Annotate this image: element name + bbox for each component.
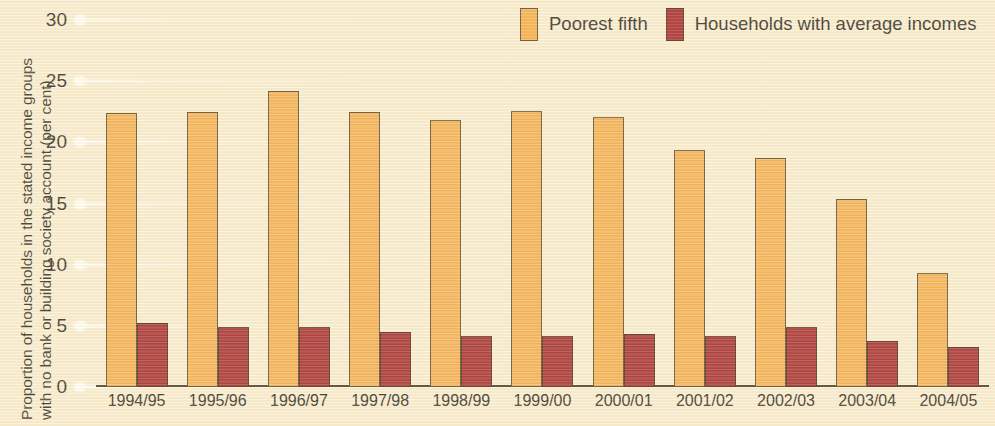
bar-series-b[interactable] xyxy=(867,341,898,387)
gridline-tick-dot-icon xyxy=(72,197,88,210)
bar-series-a[interactable] xyxy=(836,199,867,387)
x-tick-label: 1997/98 xyxy=(340,392,421,410)
bar-series-b[interactable] xyxy=(948,347,979,387)
x-tick-label: 2004/05 xyxy=(908,392,989,410)
bar-series-b[interactable] xyxy=(624,334,655,387)
bar-series-a[interactable] xyxy=(755,158,786,387)
bar-group xyxy=(340,20,421,387)
bar-group xyxy=(96,20,177,387)
y-tick-label: 20 xyxy=(27,131,67,153)
bar-group xyxy=(908,20,989,387)
gridline-tick-dot-icon xyxy=(72,136,88,149)
x-tick-label: 2001/02 xyxy=(664,392,745,410)
y-tick-label: 30 xyxy=(27,9,67,31)
legend-swatch-icon-series-a xyxy=(520,8,538,41)
bar-series-a[interactable] xyxy=(674,150,705,387)
bar-series-b[interactable] xyxy=(786,327,817,387)
bar-series-b[interactable] xyxy=(299,327,330,387)
bar-group xyxy=(421,20,502,387)
bar-series-a[interactable] xyxy=(917,273,948,387)
legend-swatch-icon-series-b xyxy=(666,8,684,41)
gridline-tick-dot-icon xyxy=(72,14,88,27)
gridline-tick-dot-icon xyxy=(72,381,88,394)
x-tick-label: 2002/03 xyxy=(745,392,826,410)
bar-series-b[interactable] xyxy=(218,327,249,387)
y-tick-label: 5 xyxy=(27,315,67,337)
bar-series-b[interactable] xyxy=(137,323,168,387)
bar-series-a[interactable] xyxy=(593,117,624,387)
x-tick-label: 2003/04 xyxy=(827,392,908,410)
gridline-tick-dot-icon xyxy=(72,75,88,88)
bar-series-b[interactable] xyxy=(461,336,492,387)
bar-group xyxy=(177,20,258,387)
bar-group xyxy=(745,20,826,387)
bar-series-b[interactable] xyxy=(542,336,573,387)
bar-group xyxy=(827,20,908,387)
legend-label-series-b: Households with average incomes xyxy=(695,13,977,35)
bar-group xyxy=(583,20,664,387)
gridline-tick-dot-icon xyxy=(72,258,88,271)
y-tick-label: 15 xyxy=(27,193,67,215)
bar-chart: Proportion of households in the stated i… xyxy=(0,0,995,426)
y-tick-label: 0 xyxy=(27,376,67,398)
legend-label-series-a: Poorest fifth xyxy=(549,13,648,35)
bar-series-a[interactable] xyxy=(268,91,299,387)
x-tick-label: 2000/01 xyxy=(583,392,664,410)
plot-area xyxy=(96,20,989,387)
x-tick-label: 1995/96 xyxy=(177,392,258,410)
y-axis-title-line-1: Proportion of households in the stated i… xyxy=(18,58,36,420)
bar-series-a[interactable] xyxy=(187,112,218,387)
legend-item-average-incomes[interactable]: Households with average incomes xyxy=(666,8,977,41)
legend-item-poorest-fifth[interactable]: Poorest fifth xyxy=(520,8,648,41)
bar-series-a[interactable] xyxy=(349,112,380,387)
x-tick-label: 1998/99 xyxy=(421,392,502,410)
bar-group xyxy=(502,20,583,387)
bar-group xyxy=(664,20,745,387)
chart-legend: Poorest fifth Households with average in… xyxy=(520,6,976,42)
bar-group xyxy=(258,20,339,387)
y-tick-label: 10 xyxy=(27,254,67,276)
bar-series-b[interactable] xyxy=(380,332,411,387)
x-tick-label: 1999/00 xyxy=(502,392,583,410)
bar-series-a[interactable] xyxy=(106,113,137,387)
gridline-tick-dot-icon xyxy=(72,319,88,332)
x-tick-label: 1996/97 xyxy=(258,392,339,410)
bar-series-a[interactable] xyxy=(430,120,461,387)
bar-series-b[interactable] xyxy=(705,336,736,387)
bar-series-a[interactable] xyxy=(511,111,542,387)
x-tick-label: 1994/95 xyxy=(96,392,177,410)
y-tick-label: 25 xyxy=(27,70,67,92)
